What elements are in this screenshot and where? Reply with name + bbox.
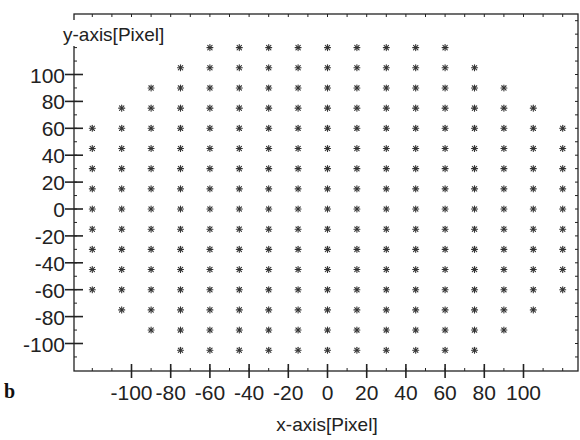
data-point <box>442 246 448 252</box>
y-axis-title: y-axis[Pixel] <box>63 24 164 45</box>
data-point <box>501 125 507 131</box>
x-tick-label: 80 <box>473 381 496 404</box>
x-tick-label: 0 <box>322 381 334 404</box>
data-point <box>472 125 478 131</box>
data-point <box>148 166 154 172</box>
data-point <box>501 327 507 333</box>
data-point <box>501 226 507 232</box>
data-point <box>325 347 331 353</box>
data-point <box>383 85 389 91</box>
data-point <box>442 125 448 131</box>
data-point <box>148 85 154 91</box>
data-point <box>383 45 389 51</box>
data-point <box>266 267 272 273</box>
data-point <box>236 85 242 91</box>
data-point <box>325 307 331 313</box>
data-point <box>354 166 360 172</box>
data-point <box>560 287 566 293</box>
data-point <box>501 267 507 273</box>
data-point <box>413 347 419 353</box>
data-point <box>530 125 536 131</box>
data-point <box>148 186 154 192</box>
data-point <box>295 186 301 192</box>
data-point <box>560 267 566 273</box>
data-point <box>325 246 331 252</box>
data-point <box>89 145 95 151</box>
data-point <box>413 246 419 252</box>
data-point <box>236 125 242 131</box>
data-point <box>178 267 184 273</box>
data-point <box>236 206 242 212</box>
data-point <box>383 267 389 273</box>
data-point <box>266 85 272 91</box>
data-point <box>207 226 213 232</box>
data-point <box>148 246 154 252</box>
data-point <box>325 125 331 131</box>
data-point <box>325 65 331 71</box>
data-point <box>560 186 566 192</box>
data-point <box>530 267 536 273</box>
data-point <box>89 125 95 131</box>
data-point <box>354 347 360 353</box>
data-point <box>472 186 478 192</box>
data-point <box>295 65 301 71</box>
data-point <box>295 327 301 333</box>
data-point <box>266 145 272 151</box>
data-point <box>354 186 360 192</box>
data-point <box>530 287 536 293</box>
data-point <box>207 246 213 252</box>
data-point <box>178 307 184 313</box>
data-point <box>295 347 301 353</box>
scatter-chart: -100-80-60-40-20020406080100 10080604020… <box>0 0 580 440</box>
data-point <box>354 267 360 273</box>
data-point <box>119 166 125 172</box>
data-point <box>472 246 478 252</box>
data-point <box>236 105 242 111</box>
y-tick-label: 40 <box>42 144 65 167</box>
data-point <box>295 206 301 212</box>
data-point <box>472 145 478 151</box>
data-point <box>89 267 95 273</box>
data-point <box>472 105 478 111</box>
data-point <box>236 347 242 353</box>
data-point <box>148 307 154 313</box>
data-point <box>442 186 448 192</box>
data-point <box>472 166 478 172</box>
data-point <box>501 145 507 151</box>
data-point <box>207 125 213 131</box>
x-tick-label: -40 <box>234 381 264 404</box>
data-point <box>266 226 272 232</box>
data-point <box>266 125 272 131</box>
data-point <box>472 226 478 232</box>
data-point <box>119 267 125 273</box>
data-point <box>178 125 184 131</box>
data-point <box>442 347 448 353</box>
data-point <box>413 105 419 111</box>
data-point <box>325 186 331 192</box>
data-point <box>472 347 478 353</box>
data-point <box>560 166 566 172</box>
data-point <box>413 45 419 51</box>
data-point <box>207 166 213 172</box>
data-point <box>236 307 242 313</box>
data-point <box>266 105 272 111</box>
data-point <box>178 246 184 252</box>
data-point <box>383 226 389 232</box>
data-point <box>207 287 213 293</box>
data-point <box>119 307 125 313</box>
data-point <box>560 246 566 252</box>
data-point <box>148 105 154 111</box>
data-point <box>148 125 154 131</box>
data-point <box>236 287 242 293</box>
data-point <box>442 307 448 313</box>
data-point <box>295 287 301 293</box>
data-point <box>501 105 507 111</box>
data-point <box>442 327 448 333</box>
x-axis-title: x-axis[Pixel] <box>276 414 377 435</box>
data-point <box>383 307 389 313</box>
data-point <box>442 267 448 273</box>
data-point <box>295 166 301 172</box>
data-point <box>560 125 566 131</box>
data-point <box>530 206 536 212</box>
data-point <box>472 327 478 333</box>
